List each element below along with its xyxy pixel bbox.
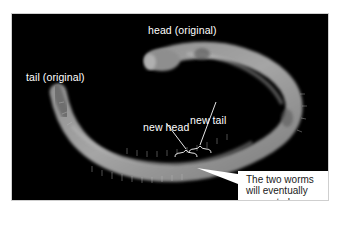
separation-callout: The two worms will eventually separate h… [238, 171, 329, 201]
label-new-tail: new tail [190, 114, 226, 126]
label-tail-original: tail (original) [26, 71, 85, 83]
callout-line-3: separate here [246, 197, 329, 201]
label-new-head: new head [143, 121, 189, 133]
label-head-original: head (original) [148, 24, 217, 36]
callout-line-1: The two worms [246, 174, 329, 185]
callout-line-2: will eventually [246, 185, 329, 196]
new-head-bracket [175, 150, 197, 157]
new-tail-bracket [189, 146, 211, 153]
worm-photo: head (original) tail (original) new tail… [11, 13, 329, 201]
